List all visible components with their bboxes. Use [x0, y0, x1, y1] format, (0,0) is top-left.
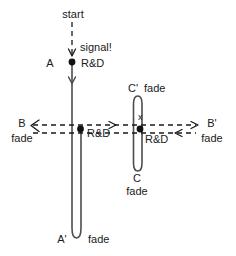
node-dot-a [69, 59, 76, 66]
label-a-rd: R&D [81, 57, 104, 69]
label-node-a: A [46, 57, 54, 69]
node-dot-c [137, 126, 144, 133]
label-b-prime-fade: fade [201, 132, 222, 144]
diagram-canvas: x start signal! A R&D B fade R&D B' fade… [0, 0, 236, 256]
label-node-c: C [133, 172, 141, 184]
label-start: start [62, 8, 83, 20]
label-b-rd: R&D [87, 127, 110, 139]
label-c-rd: R&D [145, 133, 168, 145]
label-b-fade: fade [11, 132, 32, 144]
diagram-graphics: x start signal! A R&D B fade R&D B' fade… [0, 0, 236, 256]
label-node-c-prime: C' [128, 82, 138, 94]
label-c-prime-fade: fade [144, 82, 165, 94]
label-node-b-prime: B' [207, 117, 216, 129]
label-node-a-prime: A' [57, 233, 66, 245]
label-c-fade: fade [126, 185, 147, 197]
label-signal: signal! [80, 41, 112, 53]
label-node-b: B [18, 117, 25, 129]
label-a-prime-fade: fade [88, 233, 109, 245]
arrowhead-at-b-left [31, 120, 39, 132]
strand-a-aprime [72, 62, 81, 238]
arrowhead-upper-end-right [191, 122, 198, 129]
node-dot-b [77, 126, 84, 133]
cross-mark-label: x [138, 112, 143, 122]
